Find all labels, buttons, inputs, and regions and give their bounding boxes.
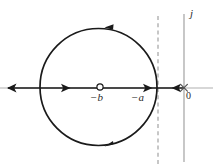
label-imaginary-axis-j: j (190, 8, 193, 19)
root-locus-figure: −b −a 0 j (0, 0, 213, 168)
label-origin-zero: 0 (186, 91, 191, 101)
label-minus-b: −b (90, 92, 103, 103)
zero-marker-b-icon (97, 84, 103, 90)
plot-canvas (0, 0, 213, 168)
label-minus-a: −a (131, 92, 144, 103)
circle-arrow-bottom-icon (105, 141, 114, 146)
